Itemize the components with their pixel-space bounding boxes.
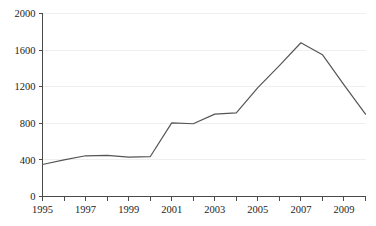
line-chart: 0400800120016002000 19951997199920012003…	[0, 0, 376, 226]
x-tick-label: 2007	[290, 204, 311, 215]
x-tick-label: 1997	[75, 204, 96, 215]
y-tick-label: 1200	[15, 81, 36, 92]
y-axis-ticks	[39, 14, 43, 197]
chart-canvas: 0400800120016002000 19951997199920012003…	[0, 0, 376, 226]
y-tick-label: 0	[30, 191, 35, 202]
x-tick-label: 2009	[333, 204, 354, 215]
x-tick-label: 2003	[204, 204, 225, 215]
y-tick-label: 800	[20, 118, 36, 129]
gridlines	[43, 14, 366, 160]
x-tick-label: 1999	[118, 204, 139, 215]
x-tick-label: 2001	[161, 204, 182, 215]
x-axis-ticks	[43, 197, 366, 201]
x-tick-label: 1995	[32, 204, 53, 215]
y-tick-label: 1600	[15, 45, 36, 56]
y-tick-label: 2000	[15, 8, 36, 19]
x-tick-label: 2005	[247, 204, 268, 215]
y-axis-tick-labels: 0400800120016002000	[15, 8, 36, 202]
y-tick-label: 400	[20, 155, 36, 166]
data-series-line	[43, 43, 366, 165]
x-axis-tick-labels: 19951997199920012003200520072009	[32, 204, 354, 215]
